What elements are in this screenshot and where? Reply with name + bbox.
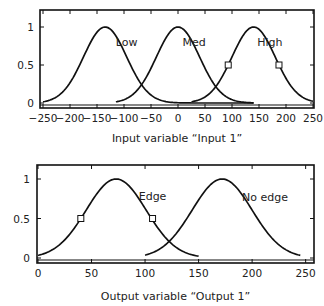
mf-label: Med bbox=[183, 36, 206, 49]
x-tick-label: −200 bbox=[56, 112, 85, 124]
x-axis-title: Input variable “Input 1” bbox=[112, 132, 242, 145]
x-tick-label: 100 bbox=[135, 267, 155, 279]
square-marker-icon bbox=[225, 62, 231, 68]
x-tick-label: 150 bbox=[249, 112, 269, 124]
x-tick-label: 200 bbox=[242, 267, 262, 279]
mf-curve-high bbox=[192, 27, 314, 102]
x-tick-label: 0 bbox=[35, 267, 42, 279]
x-tick-label: 100 bbox=[222, 112, 242, 124]
membership-function-charts: −250−200−150−100−5005010015020025000.51L… bbox=[0, 0, 324, 306]
y-tick-label: 1 bbox=[23, 173, 30, 185]
y-tick-label: 1 bbox=[27, 21, 34, 33]
y-tick-label: 0.5 bbox=[13, 213, 30, 225]
x-tick-label: 50 bbox=[198, 112, 211, 124]
x-tick-label: 150 bbox=[189, 267, 209, 279]
x-tick-label: −150 bbox=[83, 112, 112, 124]
mf-label: No edge bbox=[242, 191, 288, 204]
x-tick-label: 250 bbox=[296, 267, 316, 279]
input-membership-chart: −250−200−150−100−5005010015020025000.51L… bbox=[17, 10, 323, 145]
x-tick-label: 250 bbox=[303, 112, 323, 124]
square-marker-icon bbox=[78, 216, 84, 222]
x-tick-label: 200 bbox=[276, 112, 296, 124]
x-tick-label: −250 bbox=[29, 112, 58, 124]
mf-curve-low bbox=[43, 27, 254, 103]
output-membership-chart: 05010015020025000.51EdgeNo edgeOutput va… bbox=[13, 165, 315, 303]
x-tick-label: −50 bbox=[140, 112, 162, 124]
mf-label: Low bbox=[116, 36, 138, 49]
mf-curve-edge bbox=[38, 179, 199, 256]
x-tick-label: 50 bbox=[85, 267, 98, 279]
mf-label: High bbox=[257, 36, 282, 49]
plot-frame bbox=[37, 165, 314, 263]
y-tick-label: 0.5 bbox=[17, 59, 34, 71]
y-tick-label: 0 bbox=[23, 252, 30, 264]
square-marker-icon bbox=[150, 216, 156, 222]
plot-frame bbox=[40, 10, 314, 108]
y-tick-label: 0 bbox=[27, 97, 34, 109]
x-tick-label: −100 bbox=[110, 112, 139, 124]
x-tick-label: 0 bbox=[175, 112, 182, 124]
x-axis-title: Output variable “Output 1” bbox=[101, 290, 250, 303]
square-marker-icon bbox=[276, 62, 282, 68]
mf-label: Edge bbox=[139, 190, 167, 203]
